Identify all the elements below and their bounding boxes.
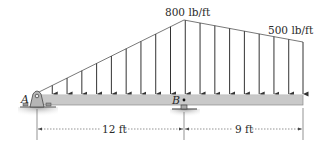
beam <box>35 95 303 105</box>
point-a-label: A <box>20 93 29 106</box>
dimension-label-12ft: 12 ft <box>102 123 128 135</box>
ground-shading-b <box>170 109 200 119</box>
ground-shading-a <box>18 107 58 119</box>
pin-icon <box>35 94 39 98</box>
right-load-label: 500 lb/ft <box>268 24 314 36</box>
dimension-label-9ft: 9 ft <box>235 123 254 135</box>
distributed-load <box>37 20 303 94</box>
point-b-dot <box>183 99 186 102</box>
roller-icon <box>181 105 187 109</box>
peak-load-label: 800 lb/ft <box>165 6 211 18</box>
point-b-label: B <box>171 94 180 107</box>
beam-diagram: 800 lb/ft 500 lb/ft A B 12 ft 9 ft <box>0 0 322 150</box>
pin-bracket-icon <box>30 91 44 107</box>
load-arrows <box>52 20 303 94</box>
